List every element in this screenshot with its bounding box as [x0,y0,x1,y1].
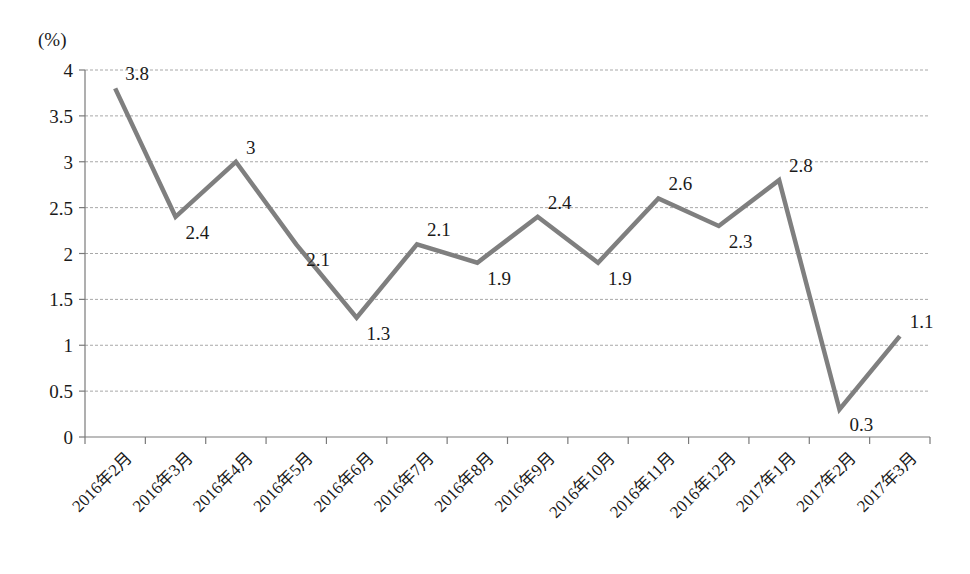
y-axis-tick-label: 3.5 [49,106,73,127]
data-point-label: 3.8 [125,63,149,84]
data-point-label: 2.4 [548,192,572,213]
data-point-label: 2.6 [668,173,692,194]
y-axis-tick-label: 0 [64,427,74,448]
data-point-label: 2.3 [729,231,753,252]
chart-canvas: (%) 00.511.522.533.54 3.82.432.11.32.11.… [0,0,970,574]
data-point-label: 2.4 [186,222,210,243]
data-point-label: 1.3 [367,323,391,344]
data-point-label: 2.8 [789,155,813,176]
y-axis-tick-label: 3 [64,152,74,173]
y-axis-unit-label: (%) [38,29,66,51]
data-point-label: 2.1 [427,219,451,240]
y-axis-tick-label: 1.5 [49,289,73,310]
y-axis-tick-label: 4 [64,60,74,81]
data-point-label: 1.1 [910,311,934,332]
data-point-label: 1.9 [487,268,511,289]
data-point-label: 2.1 [306,249,330,270]
data-point-label: 1.9 [608,268,632,289]
y-axis-tick-label: 2.5 [49,198,73,219]
line-chart: (%) 00.511.522.533.54 3.82.432.11.32.11.… [0,0,970,574]
y-axis-tick-label: 0.5 [49,381,73,402]
y-axis-tick-label: 2 [64,244,74,265]
data-point-label: 0.3 [849,414,873,435]
data-point-label: 3 [246,137,256,158]
y-axis-tick-label: 1 [64,335,74,356]
